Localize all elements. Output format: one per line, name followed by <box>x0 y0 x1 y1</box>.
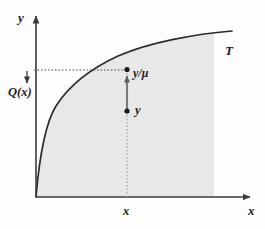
y-axis-label: y <box>18 11 24 24</box>
shaded-area-under-curve <box>36 33 214 197</box>
marker-point-y <box>124 108 129 113</box>
curve-label-t: T <box>225 44 233 57</box>
x-axis-label: x <box>248 204 255 217</box>
q-of-x-label: Q(x) <box>8 86 32 99</box>
marker-point-y-over-mu <box>124 67 129 72</box>
figure-container: y x T Q(x) y/μ y x <box>0 0 265 229</box>
point-label-y: y <box>135 104 141 117</box>
point-label-y-over-mu: y/μ <box>133 67 148 79</box>
x-tick-label: x <box>123 205 129 218</box>
diagram-canvas <box>0 0 265 229</box>
